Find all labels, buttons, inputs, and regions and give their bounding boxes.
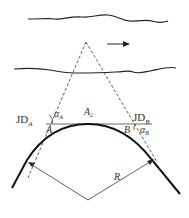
label-radius: R xyxy=(113,171,120,182)
label-alpha-a: αA xyxy=(54,108,63,120)
river-bank-bottom xyxy=(14,67,176,73)
angle-arc-b xyxy=(134,124,136,130)
label-point-b: B xyxy=(124,124,130,135)
flow-arrow-icon xyxy=(107,41,130,47)
tangent-line-b xyxy=(86,42,157,162)
curve-diagram: JDA αA A A2 JDB B αB R xyxy=(0,0,189,218)
label-jd-a: JDA xyxy=(16,113,33,128)
label-apex: A2 xyxy=(83,106,93,118)
river-bank-top xyxy=(28,15,168,23)
label-point-a: A xyxy=(45,124,53,135)
radius-lines xyxy=(28,159,154,200)
